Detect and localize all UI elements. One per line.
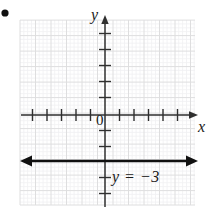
equation-label: y = −3 bbox=[112, 169, 160, 185]
x-axis-arrowhead bbox=[189, 111, 198, 119]
graph-figure: y x 0 y = −3 bbox=[0, 0, 215, 214]
coordinate-plane-svg bbox=[0, 0, 215, 214]
graph-line-arrowhead-right bbox=[186, 156, 198, 167]
bullet-point-marker bbox=[1, 9, 8, 16]
y-axis-label: y bbox=[91, 7, 98, 23]
x-axis bbox=[21, 109, 198, 121]
x-axis-label: x bbox=[198, 119, 205, 135]
origin-label: 0 bbox=[96, 113, 104, 128]
graph-line-arrowhead-left bbox=[20, 156, 32, 167]
y-axis-arrowhead bbox=[101, 15, 108, 24]
